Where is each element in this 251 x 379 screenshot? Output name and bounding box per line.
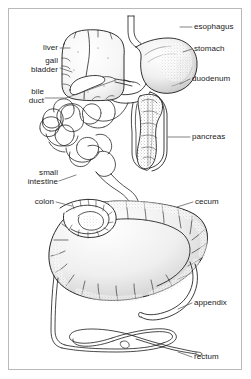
label-appendix: appendix [194, 298, 227, 308]
label-cecum: cecum [195, 197, 219, 207]
label-liver: liver [10, 43, 58, 53]
label-rectum: rectum [194, 352, 219, 362]
label-pancreas: pancreas [192, 132, 225, 142]
pancreas-shape [137, 94, 162, 168]
esophagus-shape [128, 16, 141, 47]
label-stomach: stomach [194, 44, 225, 54]
label-duct: duct [10, 96, 44, 106]
label-colon: colon [10, 197, 54, 207]
label-bladder: bladder [8, 65, 58, 75]
label-intestine: intestine [8, 177, 58, 187]
diagram-page: esophagus stomach duodenum pancreas cecu… [0, 0, 251, 379]
leader-small-intestine [59, 175, 76, 181]
label-duodenum: duodenum [192, 74, 230, 84]
leader-cecum [177, 202, 193, 207]
label-esophagus: esophagus [194, 22, 234, 32]
